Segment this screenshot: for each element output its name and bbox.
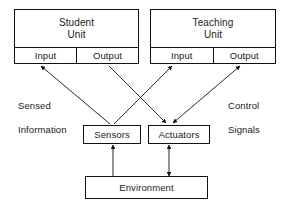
- control-signals-label: Control Signals: [228, 88, 260, 148]
- control-signals-line1: Control: [228, 100, 260, 112]
- sensed-information-label: Sensed Information: [18, 88, 67, 148]
- student-unit-title: Student Unit: [15, 10, 138, 47]
- environment-box[interactable]: Environment: [85, 176, 208, 199]
- teaching-unit-ports: Input Output: [151, 47, 275, 63]
- teaching-unit-box[interactable]: Teaching Unit Input Output: [150, 9, 276, 64]
- teaching-unit-title-line2: Unit: [204, 29, 222, 41]
- student-unit-title-line2: Unit: [67, 29, 85, 41]
- control-signals-line2: Signals: [228, 124, 260, 136]
- edge-sensors-to-teaching-input: [114, 66, 172, 124]
- teaching-unit-title: Teaching Unit: [151, 10, 275, 47]
- teaching-unit-output-port[interactable]: Output: [213, 48, 276, 63]
- system-diagram: Student Unit Input Output Teaching Unit …: [0, 0, 290, 212]
- student-unit-box[interactable]: Student Unit Input Output: [14, 9, 139, 64]
- student-unit-input-port[interactable]: Input: [15, 48, 76, 63]
- teaching-unit-title-line1: Teaching: [193, 17, 234, 29]
- teaching-unit-input-port[interactable]: Input: [151, 48, 213, 63]
- edge-student-output-to-actuators: [109, 66, 166, 123]
- student-unit-title-line1: Student: [59, 17, 94, 29]
- sensors-box[interactable]: Sensors: [83, 125, 141, 144]
- student-unit-output-port[interactable]: Output: [76, 48, 138, 63]
- actuators-box[interactable]: Actuators: [148, 125, 210, 144]
- sensed-information-line2: Information: [18, 124, 67, 136]
- student-unit-ports: Input Output: [15, 47, 138, 63]
- sensed-information-line1: Sensed: [18, 100, 67, 112]
